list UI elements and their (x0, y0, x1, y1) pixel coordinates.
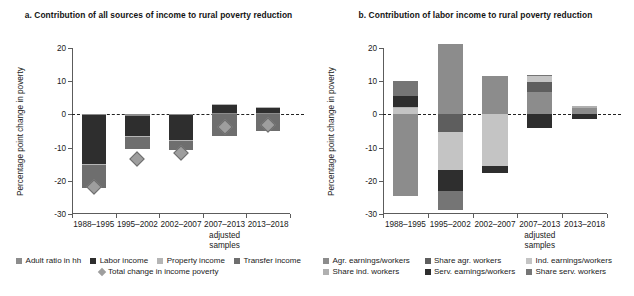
x-tick-a-1 (159, 214, 160, 218)
y-tick-b-0 (379, 48, 383, 49)
bar-segment-b-3-4 (527, 114, 552, 128)
y-tick-b-4 (379, 181, 383, 182)
legend-swatch-square-icon (425, 258, 431, 264)
legend-item-b-2[interactable]: Ind. earnings/workers (526, 256, 618, 265)
y-tick-label-b-4: -20 (365, 176, 377, 185)
bar-segment-b-2-4 (482, 166, 507, 174)
x-tick-a-3 (246, 214, 247, 218)
bar-segment-a-1-1 (125, 116, 149, 136)
x-tick-a-origin (72, 214, 73, 218)
y-tick-label-a-2: 0 (61, 110, 66, 119)
bar-segment-b-1-1 (438, 114, 463, 131)
bar-segment-b-3-5 (527, 75, 552, 76)
panel-a-y-axis (72, 48, 73, 214)
bar-segment-b-0-3 (393, 107, 418, 108)
legend-label-b-2: Ind. earnings/workers (536, 256, 612, 265)
y-tick-label-a-1: 10 (57, 77, 66, 86)
legend-item-a-4[interactable]: Total change in income poverty (99, 267, 219, 276)
legend-label-a-4: Total change in income poverty (108, 267, 218, 276)
legend-item-a-0[interactable]: Adult ratio in hh (16, 256, 81, 265)
legend-item-a-1[interactable]: Labor income (90, 256, 148, 265)
legend-swatch-square-icon (234, 258, 240, 264)
panel-b-y-axis-label: Percentage point change in poverty (325, 48, 337, 214)
panel-b-plot-area: 20100-10-20-301988–19951995–20022002–200… (383, 48, 607, 214)
legend-item-b-3[interactable]: Share ind. workers (323, 267, 415, 276)
legend-label-a-1: Labor income (100, 256, 148, 265)
y-tick-b-1 (379, 81, 383, 82)
legend-label-b-1: Share agr. workers (434, 256, 501, 265)
bar-b-1[interactable] (438, 48, 463, 214)
y-tick-a-4 (68, 181, 72, 182)
x-tick-b-4 (607, 214, 608, 218)
bar-segment-b-3-0 (527, 92, 552, 115)
figure-container: a. Contribution of all sources of income… (0, 0, 634, 296)
bar-segment-b-4-3 (572, 106, 597, 108)
bar-b-0[interactable] (393, 48, 418, 214)
legend-item-b-4[interactable]: Serv. earnings/workers (425, 267, 517, 276)
y-tick-b-3 (379, 148, 383, 149)
bar-segment-b-3-1 (527, 82, 552, 92)
legend-label-b-5: Share serv. workers (536, 267, 607, 276)
legend-swatch-square-icon (323, 258, 329, 264)
bar-segment-b-1-5 (438, 191, 463, 210)
legend-label-a-0: Adult ratio in hh (26, 256, 82, 265)
legend-item-b-5[interactable]: Share serv. workers (526, 267, 618, 276)
bar-segment-a-4-1 (256, 108, 280, 113)
legend-item-b-1[interactable]: Share agr. workers (425, 256, 517, 265)
panel-b: b. Contribution of labor income to rural… (317, 0, 634, 296)
bar-segment-b-4-4 (572, 114, 597, 119)
legend-item-a-2[interactable]: Property income (157, 256, 225, 265)
y-tick-label-a-3: -10 (54, 143, 66, 152)
bar-b-4[interactable] (572, 48, 597, 214)
y-tick-label-b-2: 0 (372, 110, 377, 119)
x-axis-note-b: adjusted (511, 231, 568, 242)
legend-swatch-square-icon (526, 269, 532, 275)
panel-a-plot-area: 20100-10-20-301988–19951995–20022002–200… (72, 48, 290, 214)
bar-segment-a-4-2 (256, 107, 280, 108)
y-tick-a-3 (68, 148, 72, 149)
legend-swatch-square-icon (425, 269, 431, 275)
bar-a-2[interactable] (169, 48, 193, 214)
bar-b-2[interactable] (482, 48, 507, 214)
bar-segment-b-1-0 (438, 44, 463, 115)
bar-segment-b-0-0 (393, 114, 418, 195)
panel-b-y-axis (383, 48, 384, 214)
legend-swatch-square-icon (90, 258, 96, 264)
legend-swatch-square-icon (16, 258, 22, 264)
y-tick-label-a-5: -30 (54, 210, 66, 219)
y-tick-a-1 (68, 81, 72, 82)
x-axis-note-a: samples (197, 241, 253, 252)
bar-segment-a-1-3 (125, 137, 149, 149)
bar-segment-a-3-2 (212, 104, 236, 105)
x-tick-b-origin (383, 214, 384, 218)
bar-segment-b-1-2 (438, 132, 463, 170)
legend-item-b-0[interactable]: Agr. earnings/workers (323, 256, 415, 265)
bar-segment-b-0-2 (393, 108, 418, 114)
legend-swatch-square-icon (526, 258, 532, 264)
bar-segment-a-2-1 (169, 115, 193, 139)
bar-a-1[interactable] (125, 48, 149, 214)
x-tick-a-0 (116, 214, 117, 218)
x-tick-a-4 (290, 214, 291, 218)
bar-segment-b-0-4 (393, 96, 418, 107)
legend-swatch-square-icon (157, 258, 163, 264)
x-axis-label-b-4: 2013–2018 (556, 220, 613, 231)
panel-a-title: a. Contribution of all sources of income… (0, 10, 317, 20)
legend-a: Adult ratio in hhLabor incomeProperty in… (0, 256, 317, 276)
y-tick-label-a-0: 20 (57, 44, 66, 53)
bar-segment-b-2-2 (482, 114, 507, 165)
bar-segment-b-1-4 (438, 170, 463, 192)
x-tick-b-3 (562, 214, 563, 218)
x-axis-note-b: samples (511, 241, 568, 252)
x-tick-b-1 (473, 214, 474, 218)
x-axis-label-a-4: 2013–2018 (240, 220, 296, 231)
panel-a-y-axis-label: Percentage point change in poverty (14, 48, 26, 214)
bar-b-3[interactable] (527, 48, 552, 214)
legend-label-b-3: Share ind. workers (333, 267, 400, 276)
legend-label-a-2: Property income (167, 256, 225, 265)
x-tick-b-0 (428, 214, 429, 218)
legend-item-a-3[interactable]: Transfer income (234, 256, 301, 265)
y-tick-label-b-0: 20 (368, 44, 377, 53)
bar-segment-a-0-1 (82, 115, 106, 163)
legend-label-a-3: Transfer income (243, 256, 301, 265)
